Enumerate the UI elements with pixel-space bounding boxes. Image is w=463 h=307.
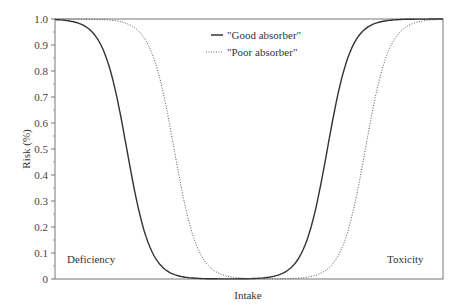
y-tick-label: 0.9 <box>34 39 48 51</box>
y-tick-label: 1.0 <box>34 13 48 25</box>
y-tick-label: 0.8 <box>34 65 48 77</box>
y-tick-label: 0.5 <box>34 143 48 155</box>
legend-item-poor-absorber: "Poor absorber" <box>227 46 297 58</box>
plot-border <box>55 19 443 279</box>
deficiency-annotation: Deficiency <box>67 253 116 265</box>
y-axis-label: Risk (%) <box>20 129 33 169</box>
toxicity-annotation: Toxicity <box>387 253 424 265</box>
legend-item-good-absorber: "Good absorber" <box>227 29 301 41</box>
y-tick-label: 0.4 <box>34 169 48 181</box>
plot-frame <box>55 19 443 279</box>
y-tick-label: 0.2 <box>34 221 48 233</box>
y-axis-ticks: 00.10.20.30.40.50.60.70.80.91.0 <box>34 13 55 285</box>
y-tick-label: 0.1 <box>34 247 48 259</box>
y-tick-label: 0.6 <box>34 117 48 129</box>
y-tick-label: 0 <box>43 273 49 285</box>
y-tick-label: 0.7 <box>34 91 48 103</box>
x-axis-label: Intake <box>234 289 262 301</box>
y-tick-label: 0.3 <box>34 195 48 207</box>
risk-intake-chart: 00.10.20.30.40.50.60.70.80.91.0 "Good ab… <box>0 0 463 307</box>
legend: "Good absorber" "Poor absorber" <box>206 29 301 58</box>
